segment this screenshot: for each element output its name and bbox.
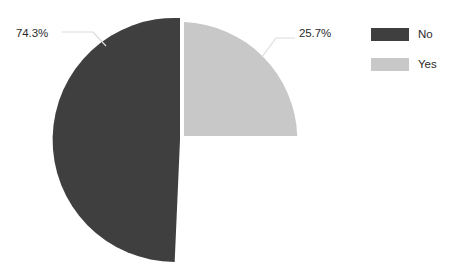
pie-slice-no[interactable]: [53, 18, 180, 262]
legend-swatch-yes: [371, 58, 409, 71]
leader-line-yes: [262, 38, 295, 57]
legend-item-no[interactable]: No: [371, 28, 437, 41]
pie-slice-yes[interactable]: [184, 22, 297, 136]
legend-label-no: No: [418, 29, 433, 41]
data-label-yes-percent: 25.7%: [299, 28, 331, 40]
legend-label-yes: Yes: [418, 59, 437, 71]
legend-swatch-no: [371, 28, 409, 41]
data-label-no-percent: 74.3%: [16, 28, 48, 40]
legend-item-yes[interactable]: Yes: [371, 58, 437, 71]
chart-legend: No Yes: [371, 28, 437, 71]
pie-chart-figure: 74.3% 25.7% No Yes: [0, 0, 464, 274]
